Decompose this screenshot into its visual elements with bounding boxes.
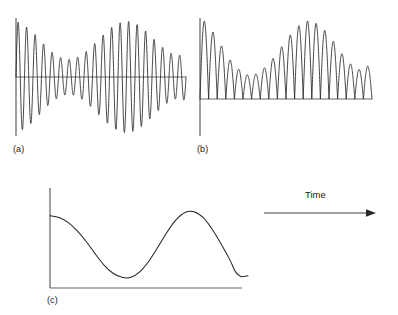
time-arrow-graphic <box>264 203 384 219</box>
panel-a-label: (a) <box>13 144 24 154</box>
panel-c <box>44 186 244 298</box>
time-label: Time <box>305 189 326 200</box>
panel-b <box>194 14 374 139</box>
panel-c-plot <box>44 186 244 298</box>
panel-b-label: (b) <box>197 144 208 154</box>
time-arrow-annotation <box>264 203 384 219</box>
figure-root: (a) (b) (c) Time <box>0 0 398 315</box>
panel-a-plot <box>10 14 188 139</box>
panel-a-waveform <box>16 22 186 133</box>
panel-c-label: (c) <box>47 295 58 305</box>
panel-b-plot <box>194 14 374 139</box>
panel-a <box>10 14 188 139</box>
right-arrow-icon <box>366 209 376 217</box>
panel-c-envelope <box>50 211 248 278</box>
panel-b-waveform <box>200 21 372 99</box>
